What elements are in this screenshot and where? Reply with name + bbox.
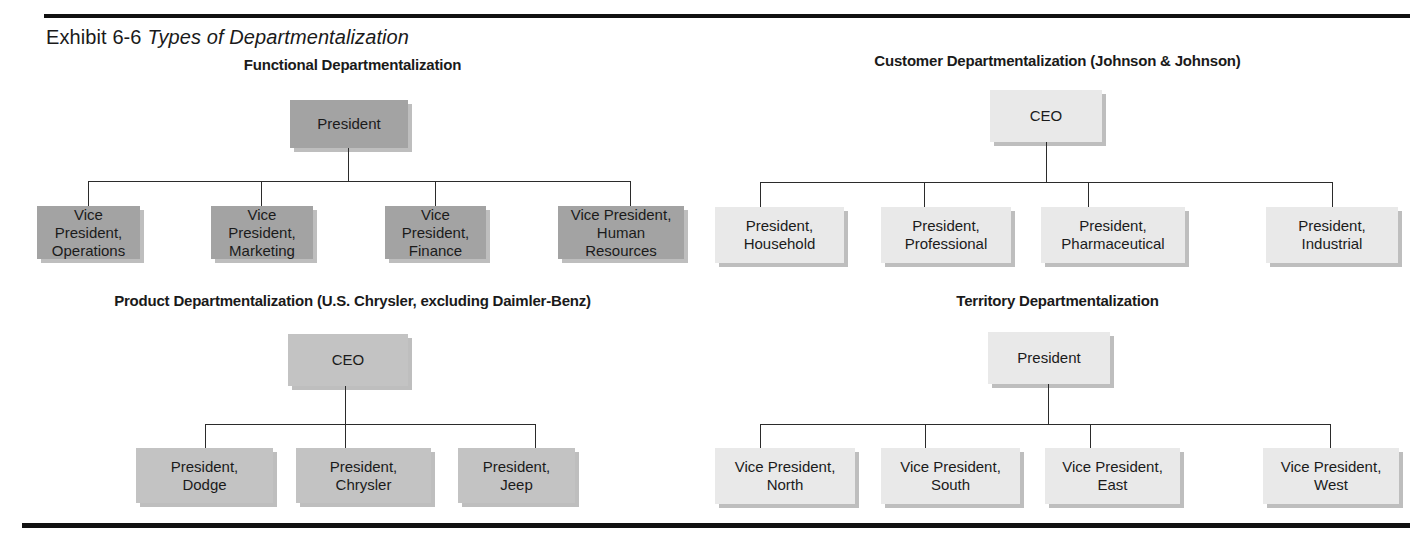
- chart-territory-departmentalization: Territory Departmentalization President …: [705, 292, 1410, 518]
- node-label: President, Pharmaceutical: [1061, 217, 1164, 253]
- node-product-child-3: President, Jeep: [458, 448, 575, 503]
- connector-drop: [630, 181, 631, 206]
- node-customer-child-1: President, Household: [715, 207, 844, 263]
- connector-drop: [261, 181, 262, 206]
- bottom-rule: [22, 523, 1410, 528]
- node-functional-root: President: [290, 100, 408, 148]
- exhibit-figure: Exhibit 6-6Types of Departmentalization …: [0, 0, 1410, 542]
- connector-stem: [1046, 142, 1047, 182]
- connector-drop: [1332, 182, 1333, 207]
- exhibit-title: Types of Departmentalization: [148, 26, 409, 48]
- node-territory-root: President: [988, 332, 1110, 384]
- node-label: Vice President, Marketing: [215, 206, 309, 260]
- node-territory-child-3: Vice President, East: [1045, 448, 1180, 504]
- connector-drop: [205, 424, 206, 448]
- node-label: CEO: [332, 351, 365, 369]
- node-functional-child-3: Vice President, Finance: [385, 206, 486, 259]
- node-label: Vice President, Operations: [41, 206, 136, 260]
- node-territory-child-2: Vice President, South: [881, 448, 1020, 504]
- connector-drop: [88, 181, 89, 206]
- connector-drop: [345, 424, 346, 448]
- node-label: CEO: [1030, 107, 1063, 125]
- connector-bus: [88, 181, 630, 182]
- node-functional-child-4: Vice President, Human Resources: [558, 206, 684, 259]
- connector-drop: [1088, 182, 1089, 207]
- node-product-root: CEO: [288, 334, 408, 386]
- node-label: President: [317, 115, 380, 133]
- node-functional-child-1: Vice President, Operations: [37, 206, 140, 259]
- connector-drop: [760, 424, 761, 448]
- node-label: President, Jeep: [483, 458, 551, 494]
- node-product-child-2: President, Chrysler: [296, 448, 431, 503]
- node-label: President, Dodge: [171, 458, 239, 494]
- exhibit-label: Exhibit 6-6: [46, 26, 142, 48]
- chart-title-product: Product Departmentalization (U.S. Chrysl…: [0, 292, 705, 309]
- chart-product-departmentalization: Product Departmentalization (U.S. Chrysl…: [0, 292, 705, 518]
- connector-drop: [925, 424, 926, 448]
- connector-drop: [760, 182, 761, 207]
- node-label: President, Industrial: [1298, 217, 1366, 253]
- top-rule: [44, 14, 1410, 18]
- connector-bus: [760, 182, 1332, 183]
- node-label: Vice President, North: [735, 458, 836, 494]
- node-customer-child-4: President, Industrial: [1266, 207, 1398, 263]
- node-product-child-1: President, Dodge: [136, 448, 273, 503]
- connector-stem: [1048, 384, 1049, 424]
- connector-stem: [345, 386, 346, 424]
- connector-bus: [205, 424, 535, 425]
- node-customer-child-3: President, Pharmaceutical: [1041, 207, 1185, 263]
- connector-stem: [348, 148, 349, 181]
- node-label: Vice President, South: [900, 458, 1001, 494]
- connector-drop: [535, 424, 536, 448]
- connector-drop: [1090, 424, 1091, 448]
- node-label: President, Chrysler: [330, 458, 398, 494]
- node-label: President: [1017, 349, 1080, 367]
- connector-drop: [1330, 424, 1331, 448]
- node-label: Vice President, Finance: [389, 206, 482, 260]
- connector-bus: [760, 424, 1330, 425]
- node-label: Vice President, Human Resources: [562, 206, 680, 260]
- node-label: Vice President, West: [1281, 458, 1382, 494]
- node-functional-child-2: Vice President, Marketing: [211, 206, 313, 259]
- node-customer-root: CEO: [990, 90, 1102, 142]
- node-territory-child-1: Vice President, North: [715, 448, 855, 504]
- node-label: President, Household: [744, 217, 816, 253]
- connector-drop: [924, 182, 925, 207]
- node-label: President, Professional: [905, 217, 988, 253]
- chart-functional-departmentalization: Functional Departmentalization President…: [0, 56, 705, 286]
- exhibit-caption: Exhibit 6-6Types of Departmentalization: [46, 24, 409, 50]
- chart-title-functional: Functional Departmentalization: [0, 56, 705, 73]
- chart-customer-departmentalization: Customer Departmentalization (Johnson & …: [705, 52, 1410, 286]
- chart-title-territory: Territory Departmentalization: [705, 292, 1410, 309]
- connector-drop: [435, 181, 436, 206]
- node-customer-child-2: President, Professional: [881, 207, 1011, 263]
- node-territory-child-4: Vice President, West: [1263, 448, 1399, 504]
- chart-title-customer: Customer Departmentalization (Johnson & …: [705, 52, 1410, 69]
- node-label: Vice President, East: [1062, 458, 1163, 494]
